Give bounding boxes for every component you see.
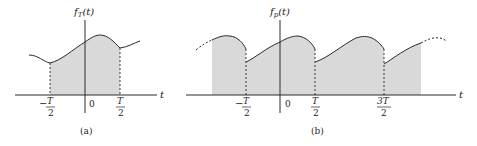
tick-label-zero-b: 0 [285, 99, 291, 109]
svg-text:2: 2 [313, 108, 319, 118]
dashed-curve-left-b [196, 40, 212, 50]
svg-text:2: 2 [244, 108, 250, 118]
svg-text:2: 2 [48, 108, 54, 118]
xlabel-b: t [459, 89, 464, 100]
svg-text:T: T [243, 96, 250, 106]
caption-b: (b) [311, 126, 324, 136]
ylabel-b: fp(t) [269, 6, 290, 19]
tick-label-half-T-b: T 2 [311, 96, 320, 118]
tick-label-half-T-a: T 2 [116, 96, 125, 118]
diagram-canvas: fT(t) t − T 2 0 T 2 (a) [0, 0, 477, 146]
tick-label-minus-half-T-a: − T 2 [39, 96, 55, 118]
xlabel-a: t [160, 89, 165, 100]
svg-text:2: 2 [118, 108, 124, 118]
ylabel-a: fT(t) [73, 6, 94, 19]
svg-text:2: 2 [381, 108, 387, 118]
caption-a: (a) [80, 126, 92, 136]
svg-text:T: T [47, 96, 54, 106]
tick-label-zero-a: 0 [89, 99, 95, 109]
tick-label-three-half-T-b: 3T 2 [377, 96, 391, 118]
svg-text:3T: 3T [377, 96, 390, 106]
svg-text:T: T [117, 96, 124, 106]
dashed-curve-right-b [421, 38, 447, 43]
tick-label-minus-half-T-b: − T 2 [235, 96, 251, 118]
panel-a: fT(t) t − T 2 0 T 2 (a) [15, 6, 165, 136]
panel-b: fp(t) t − T 2 0 T 2 3T 2 (b) [186, 6, 464, 136]
svg-text:T: T [312, 96, 319, 106]
